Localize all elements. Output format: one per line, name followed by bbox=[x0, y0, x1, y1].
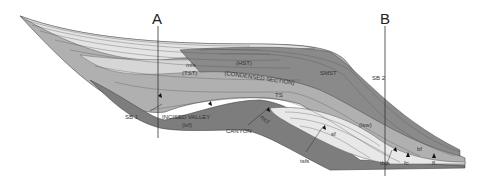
section-label-b: B bbox=[380, 11, 390, 26]
label-fc: fc bbox=[404, 160, 409, 166]
label-mfs: mfs bbox=[186, 62, 196, 68]
label-ts: TS bbox=[275, 92, 283, 98]
label-tst: (TST) bbox=[182, 70, 197, 76]
label-sb1: SB 1 bbox=[125, 114, 138, 120]
label-smst: SMST bbox=[320, 70, 337, 76]
label-incised-valley: INCISED VALLEY bbox=[162, 114, 210, 120]
label-sb2: SB 2 bbox=[372, 75, 385, 81]
label-sf: sf bbox=[331, 131, 336, 137]
stratigraphy-diagram bbox=[0, 0, 481, 176]
label-hst: (HST) bbox=[236, 60, 252, 66]
label-fl: fl bbox=[432, 160, 435, 166]
label-canyon: CANYON bbox=[226, 128, 252, 134]
label-bf: bf bbox=[417, 146, 422, 152]
label-lsw: (lsw) bbox=[359, 122, 372, 128]
label-tsfs: tsfs bbox=[300, 158, 309, 164]
label-ivf: (ivf) bbox=[182, 122, 192, 128]
label-tbfs: tbfs bbox=[380, 160, 390, 166]
section-label-a: A bbox=[152, 11, 162, 26]
